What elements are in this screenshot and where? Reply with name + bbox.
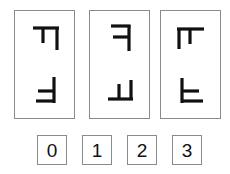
rotated-f-top-icon bbox=[177, 29, 204, 49]
puzzle-card-2 bbox=[89, 10, 150, 119]
mirrored-f-top-icon bbox=[111, 25, 131, 51]
option-2-button[interactable]: 2 bbox=[127, 135, 157, 165]
option-1-button[interactable]: 1 bbox=[82, 135, 112, 165]
glyph-pair-card-2 bbox=[90, 11, 149, 118]
rotated-f-bottom-icon bbox=[36, 77, 54, 103]
rotated-f-bottom-icon bbox=[108, 80, 133, 99]
rotated-f-top-icon bbox=[33, 28, 59, 50]
option-label: 0 bbox=[47, 141, 58, 160]
option-label: 1 bbox=[92, 141, 103, 160]
glyph-pair-card-1 bbox=[15, 11, 74, 118]
flipped-f-bottom-icon bbox=[182, 78, 203, 103]
option-3-button[interactable]: 3 bbox=[172, 135, 202, 165]
option-label: 3 bbox=[182, 141, 193, 160]
puzzle-card-1 bbox=[14, 10, 75, 119]
glyph-pair-card-3 bbox=[161, 11, 220, 118]
option-0-button[interactable]: 0 bbox=[37, 135, 67, 165]
option-label: 2 bbox=[137, 141, 148, 160]
puzzle-card-3 bbox=[160, 10, 221, 119]
